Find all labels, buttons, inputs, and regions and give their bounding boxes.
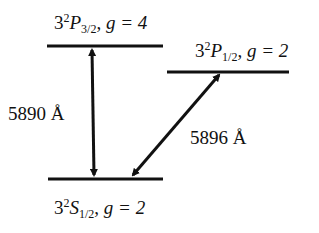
- level-label-3s12: 32S1/2, g = 2: [54, 197, 145, 220]
- transition-arrow-5896: [133, 75, 219, 175]
- level-label-3p12: 32P1/2, g = 2: [195, 40, 288, 63]
- transition-arrow-5890: [92, 50, 94, 175]
- wavelength-label-5896: 5896 Å: [190, 128, 246, 147]
- level-label-3p32: 32P3/2, g = 4: [54, 12, 147, 35]
- wavelength-label-5890: 5890 Å: [8, 104, 64, 123]
